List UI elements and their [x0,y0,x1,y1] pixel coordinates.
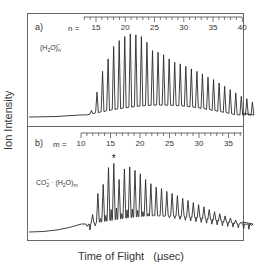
svg-text:(H2O)n−: (H2O)n− [40,41,61,53]
panel-b: b) m = 101520253035 CO2− · (H2O)m * [29,133,253,232]
panel-a: a) n = 152025303540 (H2O)n− [29,17,254,117]
svg-text:10: 10 [77,139,86,148]
m-axis-ruler: 101520253035 [77,133,242,148]
svg-text:25: 25 [150,23,159,32]
spectrum-trace-a [29,34,254,117]
svg-text:30: 30 [179,23,188,32]
spectrum-trace-b [29,163,253,232]
svg-text:35: 35 [224,139,233,148]
svg-text:30: 30 [195,139,204,148]
starred-peak-marker: * [112,153,116,164]
panel-a-index-label: n = [68,24,80,33]
svg-text:35: 35 [209,23,218,32]
x-axis-label-unit: (μsec) [153,250,184,262]
species-label-a: (H2O)n− [40,41,61,53]
x-axis-label: Time of Flight (μsec) [0,250,256,262]
panel-b-index-label: m = [53,140,67,149]
svg-text:40: 40 [238,23,247,32]
svg-text:20: 20 [121,23,130,32]
panel-b-label: b) [35,138,43,148]
svg-text:15: 15 [92,23,101,32]
svg-text:25: 25 [165,139,174,148]
ion-intensity-chart: a) n = 152025303540 (H2O)n− b) m = 10152… [0,0,256,276]
y-axis-label: Ion Intensity [2,91,14,150]
species-label-b: CO2− · (H2O)m [36,176,78,188]
svg-text:20: 20 [136,139,145,148]
svg-text:CO2− · (H2O)m: CO2− · (H2O)m [36,176,78,188]
svg-text:15: 15 [106,139,115,148]
x-axis-label-main: Time of Flight [78,250,144,262]
n-axis-ruler: 152025303540 [84,17,247,32]
panel-a-label: a) [35,22,43,32]
